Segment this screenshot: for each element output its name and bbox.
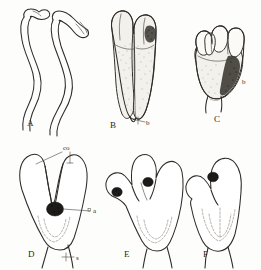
panel-b-apical-dark-patch	[144, 25, 156, 42]
panel-d-dark-body	[47, 202, 64, 216]
panel-e-dark-body-lateral	[112, 187, 122, 196]
panel-c-label: C	[214, 114, 220, 124]
label-s: s	[76, 254, 79, 262]
panel-f-label: F	[203, 249, 208, 259]
panel-e-dark-body-median	[143, 177, 153, 186]
panel-a-label: A	[27, 118, 34, 128]
panel-d-label: D	[28, 249, 35, 259]
panel-b-label: B	[110, 120, 116, 130]
panel-e-label: E	[124, 249, 130, 259]
label-b-panel-b: b	[146, 119, 150, 127]
label-b-panel-c: b	[242, 78, 246, 86]
panel-f-dark-body	[208, 172, 219, 182]
illustration-plate: A	[0, 0, 261, 270]
label-co: co	[63, 144, 70, 152]
